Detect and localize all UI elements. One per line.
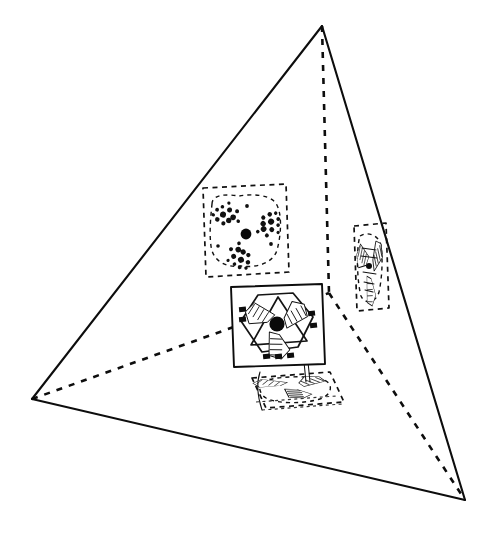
motif-top-core-dot	[241, 229, 252, 240]
visible-edge-left-right	[32, 399, 465, 500]
motif-bottom	[251, 362, 344, 410]
motif-right	[354, 223, 389, 313]
hidden-edge-right-back	[329, 293, 465, 500]
motif-center-tick	[263, 354, 270, 360]
motif-top-satellite-speck	[245, 204, 249, 208]
motif-top-satellite-speck	[216, 244, 220, 248]
motif-center-tick	[239, 307, 246, 313]
tetrahedron-diagram	[0, 0, 489, 533]
figure-root: Tetrahedral arrangement of four three-fo…	[0, 0, 489, 533]
motif-center-core-dot	[269, 316, 284, 331]
motif-center-tick	[275, 354, 282, 360]
hidden-edge-apex-back	[322, 26, 329, 293]
motif-right-core-dot	[366, 263, 372, 269]
motif-center-tick	[239, 317, 246, 323]
motif-top-satellite-speck	[269, 242, 273, 246]
motif-top	[202, 184, 291, 283]
motif-center	[231, 284, 325, 367]
visible-edge-right-apex	[322, 26, 465, 500]
motif-center-tick	[287, 353, 294, 359]
motif-center-tick	[310, 323, 317, 329]
motif-center-tick	[308, 311, 315, 317]
